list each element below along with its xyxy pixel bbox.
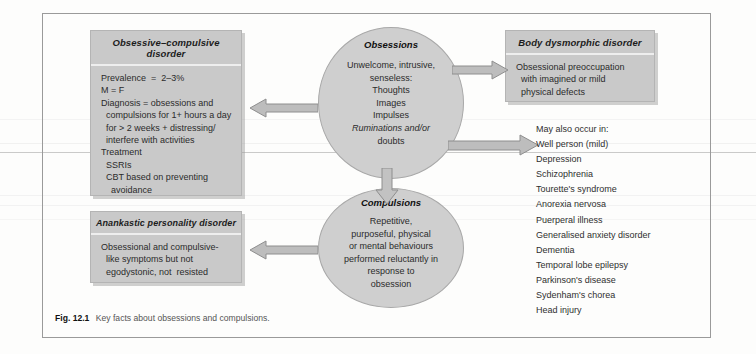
ellipse-line: senseless: (347, 72, 435, 85)
arrow-left-to-anankastic (250, 238, 318, 262)
list-item: Depression (536, 152, 701, 167)
box-anankastic-personality-disorder: Anankastic personality disorder Obsessio… (90, 211, 242, 283)
list-item: Schizophrenia (536, 167, 701, 182)
ellipse-line: or mental behaviours (344, 240, 438, 253)
box-line: Treatment (101, 146, 233, 158)
ellipse-line: doubts (347, 135, 435, 148)
arrow-right-to-bdd (452, 58, 508, 82)
ellipse-body-obsessions: Unwelcome, intrusive, senseless: Thought… (347, 59, 435, 147)
box-title-ocd: Obsessive–compulsive disorder (91, 31, 241, 66)
figure-caption: Fig. 12.1 Key facts about obsessions and… (55, 313, 270, 323)
ellipse-line: purposeful, physical (344, 228, 438, 241)
ellipse-line: Repetitive, (344, 215, 438, 228)
box-line: avoidance (101, 184, 233, 196)
list-item: Sydenham's chorea (536, 288, 701, 303)
ellipse-line: response to (344, 265, 438, 278)
box-line: interfere with activities (101, 134, 233, 146)
box-body-anankastic: Obsessional and compulsive- like symptom… (91, 235, 241, 284)
list-item: Well person (mild) (536, 137, 701, 152)
box-line: M = F (101, 84, 233, 96)
box-line: with imagined or mild (516, 73, 646, 85)
ellipse-title-obsessions: Obsessions (364, 39, 418, 50)
box-body-ocd: Prevalence = 2–3% M = F Diagnosis = obse… (91, 66, 241, 202)
box-line: Diagnosis = obsessions and (101, 97, 233, 109)
box-line: Obsessional preoccupation (516, 61, 646, 73)
box-line: Obsessional and compulsive- (101, 241, 233, 253)
box-line: for > 2 weeks + distressing/ (101, 122, 233, 134)
ellipse-line: performed reluctantly in (344, 253, 438, 266)
caption-text: Key facts about obsessions and compulsio… (96, 313, 270, 323)
ellipse-compulsions: Compulsions Repetitive, purposeful, phys… (318, 188, 464, 308)
ellipse-line: Thoughts (347, 84, 435, 97)
ellipse-obsessions: Obsessions Unwelcome, intrusive, sensele… (318, 27, 464, 179)
list-heading: May also occur in: (536, 122, 701, 137)
list-item: Anorexia nervosa (536, 197, 701, 212)
caption-label: Fig. 12.1 (55, 313, 89, 323)
arrow-left-to-ocd (250, 96, 318, 120)
ellipse-line: Images (347, 97, 435, 110)
arrow-right-to-list (448, 133, 538, 157)
ellipse-line: Impulses (347, 109, 435, 122)
list-item: Generalised anxiety disorder (536, 228, 701, 243)
list-item: Head injury (536, 303, 701, 318)
box-title-anankastic: Anankastic personality disorder (91, 212, 241, 235)
list-item: Puerperal illness (536, 213, 701, 228)
box-body-dysmorphic-disorder: Body dysmorphic disorder Obsessional pre… (505, 30, 655, 102)
list-item: Tourette's syndrome (536, 182, 701, 197)
may-also-occur-list: May also occur in: Well person (mild) De… (536, 122, 701, 318)
box-line: CBT based on preventing (101, 171, 233, 183)
list-item: Temporal lobe epilepsy (536, 258, 701, 273)
box-line: SSRIs (101, 159, 233, 171)
box-line: physical defects (516, 86, 646, 98)
list-item: Dementia (536, 243, 701, 258)
list-item: Parkinson's disease (536, 273, 701, 288)
ellipse-line: Ruminations and/or (347, 122, 435, 135)
ellipse-line: Unwelcome, intrusive, (347, 59, 435, 72)
box-line: Prevalence = 2–3% (101, 72, 233, 84)
box-line: like symptoms but not (101, 253, 233, 265)
figure-page: Obsessive–compulsive disorder Prevalence… (0, 0, 756, 354)
box-title-bdd: Body dysmorphic disorder (506, 31, 654, 55)
arrow-down-to-compulsions (373, 168, 401, 204)
ellipse-line: obsession (344, 278, 438, 291)
box-line: compulsions for 1+ hours a day (101, 109, 233, 121)
box-line: egodystonic, not resisted (101, 266, 233, 278)
ellipse-body-compulsions: Repetitive, purposeful, physical or ment… (344, 215, 438, 291)
box-obsessive-compulsive-disorder: Obsessive–compulsive disorder Prevalence… (90, 30, 242, 196)
box-body-bdd: Obsessional preoccupation with imagined … (506, 55, 654, 104)
